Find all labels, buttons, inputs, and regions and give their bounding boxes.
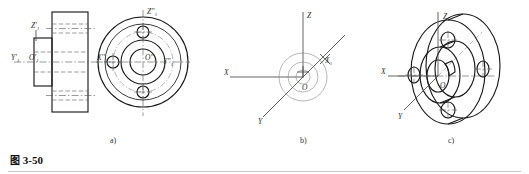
label-z-partb: Z — [307, 11, 312, 20]
caption-divider — [8, 171, 521, 172]
label-y-end: Y''₁ — [163, 57, 173, 66]
figure-container: .ol { fill:none; stroke:#1a1a1a; stroke-… — [0, 0, 529, 174]
label-y-partc: Y — [398, 112, 403, 121]
label-origin-partb: O — [302, 83, 308, 92]
part-a-end-view: Z''₁ X''₁ O''₁ Y''₁ — [96, 7, 190, 116]
caption-bar: 图 3-50 — [0, 152, 529, 174]
label-x-partc: X — [380, 67, 386, 76]
sublabel-b: b) — [300, 136, 307, 145]
axis-x1-line — [303, 35, 345, 77]
axis-y-line — [263, 77, 303, 117]
bore-rear-arc — [445, 61, 455, 76]
label-y-partb: Y — [258, 117, 263, 126]
part-a-front-view: Z'₁ Y'₁ O'₁ — [11, 12, 100, 112]
part-c-axonometric-flange: Z X Y O — [380, 12, 500, 124]
label-origin-end: O''₁ — [145, 53, 157, 62]
label-origin-front: O'₁ — [29, 53, 39, 62]
part-b-axes-construction: Z X Y X₁ O — [223, 11, 345, 126]
label-z-front: Z'₁ — [31, 21, 40, 30]
label-x-end: X''₁ — [96, 53, 108, 62]
label-x-partb: X — [223, 68, 229, 77]
technical-drawing-canvas: .ol { fill:none; stroke:#1a1a1a; stroke-… — [0, 0, 529, 174]
label-origin-partc: O — [440, 81, 446, 90]
label-x1-partb: X₁ — [324, 56, 333, 65]
sublabel-c: c) — [448, 136, 454, 145]
sublabel-a: a) — [110, 136, 116, 145]
caption-cjk-glyph: 图 — [10, 155, 20, 166]
caption-number: 3-50 — [23, 154, 43, 166]
label-y-front: Y'₁ — [11, 53, 20, 62]
label-z-end: Z''₁ — [147, 7, 157, 16]
figure-caption: 图 3-50 — [10, 152, 43, 167]
